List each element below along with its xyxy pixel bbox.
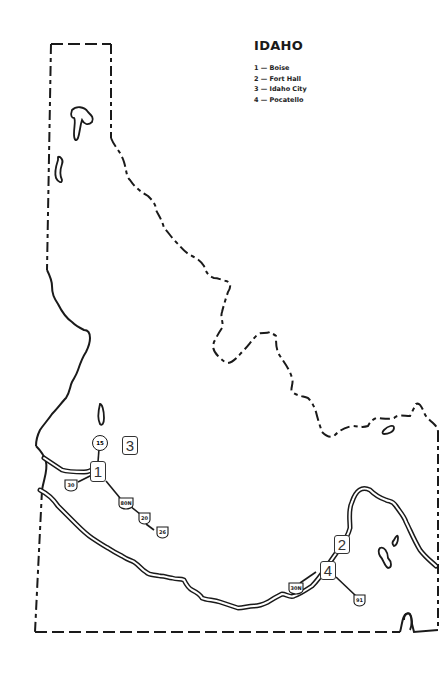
highway-lines	[78, 449, 356, 596]
legend-item-boise: 1 — Boise	[254, 63, 307, 74]
map-legend: 1 — Boise 2 — Fort Hall 3 — Idaho City 4…	[254, 63, 307, 105]
us-route-shield-20: 20	[138, 512, 151, 525]
lake-henrys	[383, 426, 395, 434]
location-marker-idaho-city[interactable]: 3	[122, 436, 138, 455]
state-route-shield-15: 15	[92, 435, 108, 451]
location-marker-boise[interactable]: 1	[90, 461, 106, 482]
us-route-shield-91: 91	[353, 594, 366, 607]
legend-item-pocatello: 4 — Pocatello	[254, 95, 307, 106]
border-montana	[111, 138, 438, 437]
lake-coeur-dalene	[55, 157, 62, 182]
legend-item-idaho-city: 3 — Idaho City	[254, 84, 307, 95]
boise-river	[44, 458, 94, 472]
idaho-map	[0, 0, 446, 673]
lake-cascade	[99, 404, 105, 425]
snake-river	[40, 489, 436, 609]
border-south-notch	[400, 613, 438, 632]
lake-bear	[404, 613, 412, 630]
border-snake-river-west	[36, 270, 90, 446]
border-oregon	[35, 490, 42, 632]
legend-item-fort-hall: 2 — Fort Hall	[254, 74, 307, 85]
us-route-shield-30: 30	[64, 479, 78, 492]
us-route-shield-26: 26	[156, 526, 169, 539]
lake-blackfoot-reservoir	[379, 548, 392, 568]
map-title: IDAHO	[254, 38, 303, 53]
lake-grays	[393, 536, 399, 546]
location-marker-fort-hall[interactable]: 2	[334, 535, 350, 554]
us-route-shield-80n: 80N	[118, 497, 134, 510]
border-west-panhandle	[47, 44, 51, 270]
us-route-shield-30n: 30N	[288, 582, 304, 595]
border-oregon-top	[36, 446, 47, 490]
lake-pend-oreille	[71, 107, 93, 140]
location-marker-pocatello[interactable]: 4	[320, 561, 336, 580]
